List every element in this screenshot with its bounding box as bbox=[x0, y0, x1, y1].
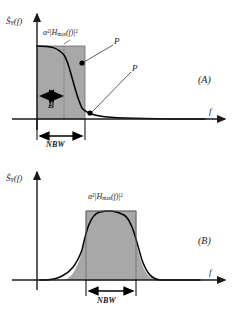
callout-leader-2 bbox=[92, 72, 131, 112]
x-axis-label-b: f bbox=[209, 268, 212, 277]
formula-leader-a bbox=[64, 40, 70, 44]
panel-b: ŜY(f) α2|Hmax(f)|2 NBW f (B) bbox=[0, 160, 247, 320]
callout-dot-2 bbox=[87, 110, 92, 115]
h-argument-a: (f) bbox=[66, 28, 74, 37]
h-subscript-b: max bbox=[102, 195, 111, 201]
panel-a: ŜY(f) α2|Hmax(f)|2 P P B NBW f (A) bbox=[0, 0, 247, 160]
nbw-label-a: NBW bbox=[46, 141, 65, 149]
nbw-label-b: NBW bbox=[97, 297, 116, 305]
y-axis-label-a: ŜY(f) bbox=[6, 17, 22, 27]
formula-label-b: α2|Hmax(f)|2 bbox=[88, 193, 123, 201]
y-axis-argument-a: (f) bbox=[14, 16, 23, 26]
nbw-rectangle-a bbox=[37, 46, 85, 119]
panel-tag-a: (A) bbox=[198, 75, 211, 85]
h-exponent-b: 2 bbox=[120, 192, 123, 198]
psd-fill-b bbox=[62, 213, 160, 280]
formula-label-a: α2|Hmax(f)|2 bbox=[43, 29, 78, 37]
panel-tag-b: (B) bbox=[198, 236, 211, 246]
h-exponent-a: 2 bbox=[75, 28, 78, 34]
y-axis-label-b: ŜY(f) bbox=[6, 174, 22, 184]
h-subscript-a: max bbox=[57, 31, 66, 37]
callout-dot-1 bbox=[79, 60, 84, 65]
h-argument-b: (f) bbox=[111, 192, 119, 201]
x-axis-label-a: f bbox=[209, 107, 212, 116]
callout-label-p-2: P bbox=[132, 64, 138, 73]
bandwidth-label-b: B bbox=[48, 101, 54, 110]
figure-root: ŜY(f) α2|Hmax(f)|2 P P B NBW f (A) bbox=[0, 0, 247, 320]
y-axis-argument-b: (f) bbox=[14, 173, 23, 183]
callout-label-p-1: P bbox=[114, 37, 120, 46]
callout-leader-1 bbox=[84, 45, 113, 62]
